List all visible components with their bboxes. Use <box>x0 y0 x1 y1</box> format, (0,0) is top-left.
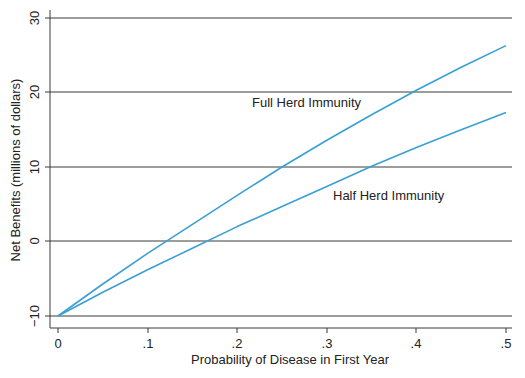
axes <box>45 10 512 333</box>
annotation-full-herd-immunity: Full Herd Immunity <box>252 95 362 110</box>
line-chart: 30 20 10 0 −10 0 .1 .2 .3 .4 .5 Probabil… <box>0 0 525 378</box>
x-tick-0-5: .5 <box>501 336 512 351</box>
y-tick-30: 30 <box>27 11 42 25</box>
x-tick-labels: 0 .1 .2 .3 .4 .5 <box>54 336 511 351</box>
y-tick-labels: 30 20 10 0 −10 <box>27 11 42 327</box>
x-tick-0-1: .1 <box>143 336 154 351</box>
y-tick-minus-10: −10 <box>27 305 42 327</box>
series-line-half-herd-immunity <box>58 113 506 316</box>
x-tick-0-2: .2 <box>232 336 243 351</box>
annotation-half-herd-immunity: Half Herd Immunity <box>333 188 445 203</box>
series-line-full-herd-immunity <box>58 46 506 316</box>
y-tick-20: 20 <box>27 85 42 99</box>
y-axis-title: Net Benefits (millions of dollars) <box>8 79 23 262</box>
x-tick-0-4: .4 <box>411 336 422 351</box>
x-tick-0-3: .3 <box>322 336 333 351</box>
x-tick-0: 0 <box>54 336 61 351</box>
y-tick-10: 10 <box>27 160 42 174</box>
series-layer <box>58 46 506 316</box>
y-tick-0: 0 <box>27 237 42 244</box>
x-axis-title: Probability of Disease in First Year <box>191 352 390 367</box>
